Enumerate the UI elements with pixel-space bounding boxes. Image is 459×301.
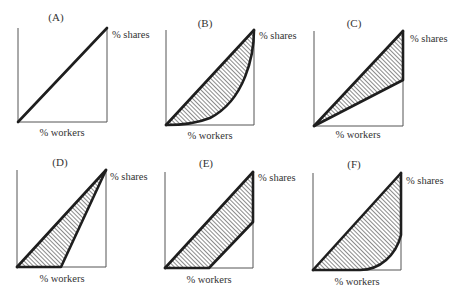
- panel-c: (C) % shares % workers: [314, 17, 448, 140]
- lorenz-diagram-figure: (A) % shares % workers (B) % shares % wo…: [0, 0, 459, 301]
- panel-b-y-label: % shares: [259, 30, 297, 41]
- panel-f-title: (F): [347, 158, 361, 171]
- panel-f: (F) % shares % workers: [313, 158, 444, 287]
- panel-e-y-label: % shares: [258, 172, 296, 183]
- panel-a-y-label: % shares: [112, 29, 150, 40]
- panel-c-title: (C): [347, 17, 362, 30]
- panel-d-x-label: % workers: [39, 273, 84, 284]
- panel-d-title: (D): [52, 156, 68, 169]
- panel-f-y-label: % shares: [406, 175, 444, 186]
- panel-b-title: (B): [198, 17, 213, 30]
- panel-e-x-label: % workers: [186, 274, 231, 285]
- panel-a-x-label: % workers: [39, 127, 84, 138]
- panel-d-y-label: % shares: [110, 171, 148, 182]
- panel-b: (B) % shares % workers: [166, 17, 297, 141]
- panel-a: (A) % shares % workers: [18, 11, 150, 138]
- panel-c-y-label: % shares: [410, 33, 448, 44]
- panel-a-equality-line: [18, 28, 107, 122]
- panel-b-x-label: % workers: [187, 130, 232, 141]
- panel-e-title: (E): [199, 157, 213, 170]
- panel-d: (D) % shares % workers: [17, 156, 148, 284]
- panel-c-x-label: % workers: [335, 129, 380, 140]
- panel-a-title: (A): [48, 11, 64, 24]
- panel-e: (E) % shares % workers: [165, 157, 296, 285]
- panel-f-x-label: % workers: [334, 276, 379, 287]
